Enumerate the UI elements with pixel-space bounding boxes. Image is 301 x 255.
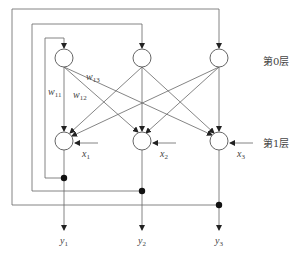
output-label-y2: y2 [137,235,146,248]
neuron-layer1-3 [210,132,228,150]
junction-dot-2 [139,188,145,194]
layer-label-1: 第1层 [263,137,289,149]
weight-label-w12: w12 [73,89,87,102]
feedback-loop-2 [32,24,142,191]
weight-label-w11: w11 [48,86,62,99]
neuron-layer0-2 [133,49,151,67]
neuron-layer1-2 [133,132,151,150]
output-label-y3: y3 [214,235,223,248]
layer-label-0: 第0层 [263,55,289,67]
input-label-x3: x3 [236,148,245,161]
neuron-layer0-3 [210,49,228,67]
input-label-x1: x1 [81,148,90,161]
neuron-layer0-1 [55,49,73,67]
feedback-loop-3 [12,9,219,205]
output-label-y1: y1 [59,235,68,248]
junction-dot-3 [216,202,222,208]
neuron-layer1-1 [55,132,73,150]
input-label-x2: x2 [159,148,168,161]
junction-dot-1 [61,175,67,181]
network-diagram: w11 w12 w13 x1 x2 x3 y1 y2 y3 第0层 第1层 [0,0,301,255]
weight-label-w13: w13 [86,71,100,84]
